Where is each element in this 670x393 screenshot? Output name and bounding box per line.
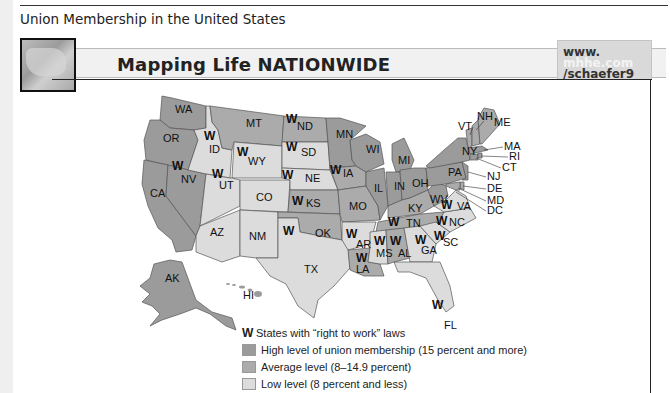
svg-text:MS: MS <box>376 247 393 259</box>
svg-text:PA: PA <box>448 166 463 178</box>
svg-text:VT: VT <box>458 120 472 132</box>
svg-text:OK: OK <box>315 227 332 239</box>
svg-text:KY: KY <box>408 202 423 214</box>
svg-text:CO: CO <box>256 191 273 203</box>
svg-text:CT: CT <box>502 161 517 173</box>
svg-text:AZ: AZ <box>210 226 224 238</box>
svg-text:W: W <box>388 215 400 229</box>
svg-text:W: W <box>346 227 358 241</box>
svg-text:W: W <box>172 159 184 173</box>
svg-text:W: W <box>432 298 444 312</box>
state-RI[interactable] <box>478 153 482 158</box>
legend-right-to-work-label: States with “right to work” laws <box>256 327 405 339</box>
svg-text:NC: NC <box>449 216 465 228</box>
svg-text:W: W <box>286 140 298 154</box>
svg-text:MN: MN <box>336 128 353 140</box>
svg-text:ND: ND <box>297 120 313 132</box>
legend-right-to-work: W States with “right to work” laws <box>242 324 527 341</box>
w-symbol-icon: W <box>242 326 256 340</box>
legend-high: High level of union membership (15 perce… <box>242 341 527 358</box>
svg-text:W: W <box>441 198 453 212</box>
map-legend: W States with “right to work” laws High … <box>242 324 527 392</box>
state-FL[interactable] <box>394 262 454 312</box>
svg-text:IL: IL <box>374 182 383 194</box>
svg-text:OR: OR <box>163 132 180 144</box>
low-swatch-icon <box>242 378 256 390</box>
svg-text:IN: IN <box>394 180 405 192</box>
svg-text:W: W <box>204 129 216 143</box>
svg-text:SD: SD <box>301 146 316 158</box>
svg-text:NH: NH <box>477 110 493 122</box>
svg-text:WA: WA <box>175 103 193 115</box>
svg-text:NV: NV <box>181 173 197 185</box>
svg-text:W: W <box>390 234 402 248</box>
svg-text:W: W <box>436 214 448 228</box>
svg-text:W: W <box>374 234 386 248</box>
svg-text:WI: WI <box>366 143 379 155</box>
svg-text:KS: KS <box>306 197 321 209</box>
svg-text:WY: WY <box>248 155 266 167</box>
legend-low: Low level (8 percent and less) <box>242 375 527 392</box>
average-swatch-icon <box>242 361 256 373</box>
svg-text:W: W <box>212 167 224 181</box>
svg-text:AR: AR <box>356 238 371 250</box>
svg-text:W: W <box>237 145 249 159</box>
svg-text:W: W <box>330 163 342 177</box>
svg-text:W: W <box>283 224 295 238</box>
svg-text:NM: NM <box>249 230 266 242</box>
svg-text:AL: AL <box>398 247 411 259</box>
svg-text:W: W <box>434 229 446 243</box>
legend-high-label: High level of union membership (15 perce… <box>261 344 527 356</box>
states <box>140 96 500 330</box>
svg-text:TN: TN <box>406 217 421 229</box>
svg-text:W: W <box>356 251 368 265</box>
svg-text:HI: HI <box>243 289 254 301</box>
svg-text:NE: NE <box>305 172 320 184</box>
legend-average-label: Average level (8–14.9 percent) <box>261 361 411 373</box>
svg-text:MO: MO <box>349 200 367 212</box>
svg-text:W: W <box>286 112 298 126</box>
legend-average: Average level (8–14.9 percent) <box>242 358 527 375</box>
svg-text:MT: MT <box>246 117 262 129</box>
state-AK[interactable] <box>140 260 236 330</box>
svg-text:W: W <box>282 168 294 182</box>
svg-text:IA: IA <box>343 167 354 179</box>
svg-text:TX: TX <box>304 263 319 275</box>
svg-text:ID: ID <box>209 143 220 155</box>
svg-text:MI: MI <box>398 154 410 166</box>
legend-low-label: Low level (8 percent and less) <box>261 378 407 390</box>
svg-text:CA: CA <box>150 187 166 199</box>
svg-text:OH: OH <box>412 177 429 189</box>
svg-text:NY: NY <box>462 145 478 157</box>
svg-text:DC: DC <box>487 204 503 216</box>
svg-text:VA: VA <box>457 200 472 212</box>
svg-text:NJ: NJ <box>487 170 500 182</box>
high-swatch-icon <box>242 344 256 356</box>
svg-text:AK: AK <box>165 272 180 284</box>
svg-text:W: W <box>415 233 427 247</box>
svg-text:DE: DE <box>487 182 502 194</box>
svg-text:ME: ME <box>494 116 511 128</box>
svg-text:W: W <box>292 194 304 208</box>
